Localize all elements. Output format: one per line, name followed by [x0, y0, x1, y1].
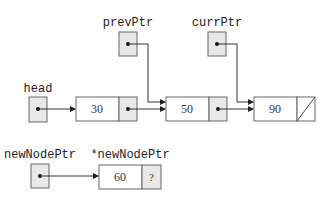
new-node-value: 60 — [114, 170, 126, 184]
new-node-label: *newNodePtr — [90, 148, 169, 162]
list-node-90: 90 — [254, 97, 315, 121]
prevptr-label: prevPtr — [103, 16, 153, 30]
head-label: head — [24, 82, 53, 96]
node-90-value: 90 — [269, 102, 281, 116]
head-pointer: head — [24, 82, 75, 122]
currptr-pointer: currPtr — [192, 16, 253, 102]
new-node-60: *newNodePtr 60 ? — [90, 148, 169, 189]
node-30-value: 30 — [91, 102, 103, 116]
newnodeptr-label: newNodePtr — [4, 148, 76, 162]
node-50-value: 50 — [181, 102, 193, 116]
list-node-30: 30 — [76, 97, 165, 121]
prevptr-pointer: prevPtr — [103, 16, 165, 102]
list-node-50: 50 — [166, 97, 253, 121]
new-node-next-unknown: ? — [149, 171, 154, 183]
currptr-label: currPtr — [192, 16, 242, 30]
newnodeptr-pointer: newNodePtr — [4, 148, 98, 188]
linked-list-diagram: head 30 prevPtr 50 currPtr 90 — [0, 0, 331, 198]
